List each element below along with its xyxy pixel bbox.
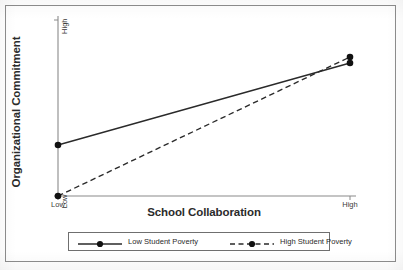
legend-swatch-solid-line-icon — [77, 236, 123, 248]
legend-label-low-student-poverty: Low Student Poverty — [128, 237, 198, 246]
data-point-low-poverty-low-collab — [55, 142, 62, 149]
x-tick-label-high: High — [336, 200, 364, 209]
series-line-high-student-poverty — [58, 57, 350, 196]
legend-item-high-student-poverty[interactable]: High Student Poverty — [229, 233, 352, 250]
x-tick-label-low: Low — [44, 200, 72, 209]
y-axis-title: Organizational Commitment — [10, 32, 22, 192]
chart-plot-area: Organizational Commitment School Collabo… — [0, 0, 403, 270]
chart-legend: Low Student Poverty High Student Poverty — [68, 232, 330, 251]
data-point-low-poverty-high-collab — [347, 60, 354, 67]
x-axis-title: School Collaboration — [58, 206, 350, 218]
data-point-high-poverty-high-collab — [347, 54, 354, 61]
y-tick-label-high: High — [60, 19, 69, 53]
legend-swatch-dashed-line-icon — [229, 236, 275, 248]
legend-label-high-student-poverty: High Student Poverty — [280, 237, 352, 246]
series-line-low-student-poverty — [58, 63, 350, 145]
legend-item-low-student-poverty[interactable]: Low Student Poverty — [77, 233, 198, 250]
